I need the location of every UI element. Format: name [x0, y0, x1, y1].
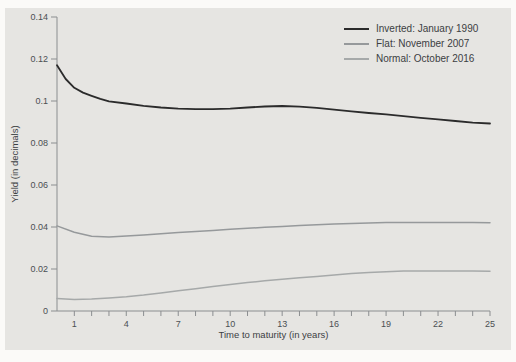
- x-tick-label: 13: [277, 319, 287, 329]
- flat-line-swatch-icon: [344, 43, 369, 45]
- legend-item-flat: Flat: November 2007: [344, 36, 478, 51]
- legend-item-inverted: Inverted: January 1990: [344, 21, 478, 36]
- y-tick-label: 0.14: [30, 12, 48, 22]
- legend-label-inverted: Inverted: January 1990: [376, 23, 478, 34]
- x-tick-label: 4: [124, 319, 129, 329]
- y-tick-label: 0.04: [30, 222, 48, 232]
- x-tick-label: 25: [485, 319, 495, 329]
- y-tick-label: 0.08: [30, 138, 48, 148]
- legend-label-normal: Normal: October 2016: [376, 53, 474, 64]
- x-tick-label: 16: [329, 319, 339, 329]
- y-tick-label: 0.12: [30, 54, 48, 64]
- x-axis-tick-labels: 147101316192225: [72, 319, 495, 329]
- x-tick-label: 7: [176, 319, 181, 329]
- legend: Inverted: January 1990 Flat: November 20…: [344, 21, 478, 66]
- series-line-2: [57, 271, 490, 300]
- legend-item-normal: Normal: October 2016: [344, 51, 478, 66]
- x-tick-label: 19: [381, 319, 391, 329]
- legend-label-flat: Flat: November 2007: [376, 38, 469, 49]
- y-tick-label: 0.1: [35, 96, 48, 106]
- y-axis-ticks: 00.020.040.060.080.10.120.14: [30, 12, 57, 316]
- x-axis-minor-ticks: [74, 311, 490, 316]
- y-tick-label: 0.06: [30, 180, 48, 190]
- series-line-0: [57, 65, 490, 123]
- y-axis-title: Yield (in decimals): [9, 125, 20, 202]
- series-line-1: [57, 222, 490, 237]
- x-tick-label: 1: [72, 319, 77, 329]
- y-tick-label: 0: [43, 306, 48, 316]
- inverted-line-swatch-icon: [344, 28, 369, 30]
- x-tick-label: 10: [225, 319, 235, 329]
- x-tick-label: 22: [433, 319, 443, 329]
- y-tick-label: 0.02: [30, 264, 48, 274]
- normal-line-swatch-icon: [344, 58, 369, 60]
- x-axis-title: Time to maturity (in years): [57, 329, 490, 340]
